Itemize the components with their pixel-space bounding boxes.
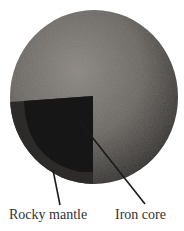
planet-diagram — [0, 0, 184, 231]
rocky-mantle-label: Rocky mantle — [9, 207, 87, 223]
iron-core-label: Iron core — [115, 207, 166, 223]
core-section — [24, 96, 93, 172]
